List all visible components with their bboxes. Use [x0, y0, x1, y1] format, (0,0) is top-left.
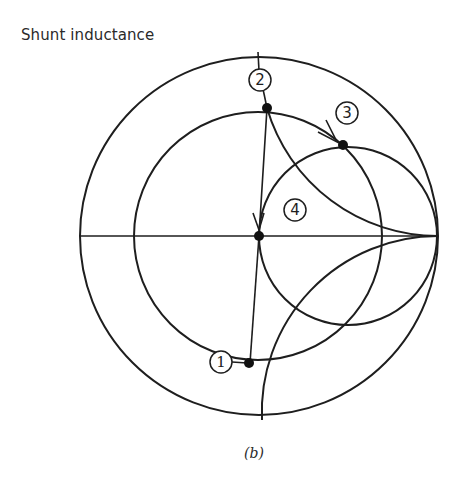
point-4-label: 4 [284, 199, 306, 221]
figure-caption: (b) [244, 445, 264, 461]
smith-chart: 2 3 4 1 [0, 0, 462, 481]
point-1-label: 1 [210, 351, 232, 373]
point-4-dot [254, 231, 264, 241]
svg-text:1: 1 [216, 353, 226, 371]
svg-text:4: 4 [290, 201, 300, 219]
point-2-label: 2 [249, 69, 271, 91]
point-1-dot [244, 358, 254, 368]
point-3-label: 3 [336, 102, 358, 124]
path-4-to-1 [250, 236, 259, 363]
top-tick [258, 52, 259, 71]
svg-text:2: 2 [255, 71, 265, 89]
svg-text:3: 3 [342, 104, 352, 122]
point-3-dot [338, 140, 348, 150]
point-2-dot [262, 103, 272, 113]
